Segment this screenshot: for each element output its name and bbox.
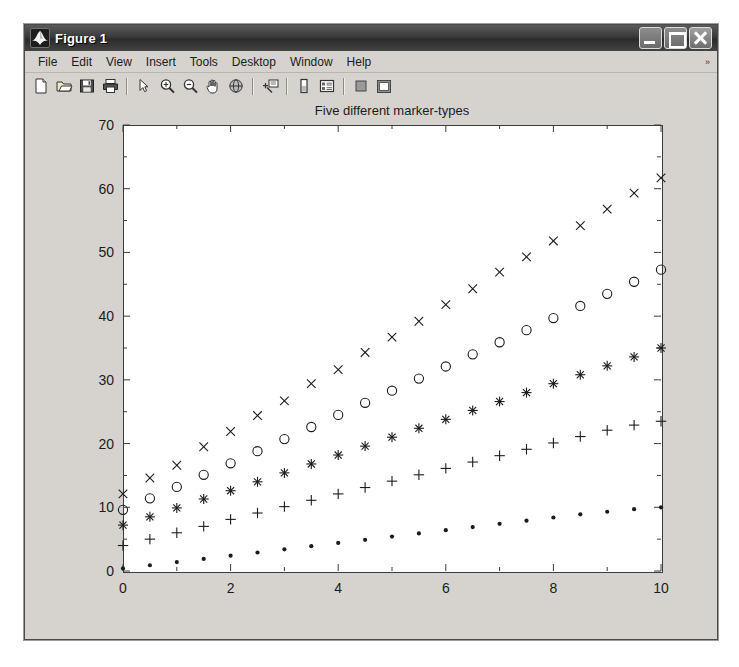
matlab-membrane-icon [30,28,50,48]
menu-help[interactable]: Help [340,53,379,71]
window-controls [639,27,714,49]
save-figure-icon[interactable] [76,76,98,97]
figure-toolbar [25,73,717,100]
rotate-3d-icon[interactable] [225,76,247,97]
svg-text:20: 20 [98,436,114,452]
svg-text:0: 0 [119,580,127,596]
svg-text:0: 0 [106,563,114,579]
show-plot-tools-icon[interactable] [373,76,395,97]
svg-text:50: 50 [98,244,114,260]
print-figure-icon[interactable] [99,76,121,97]
pan-hand-icon[interactable] [202,76,224,97]
menu-window[interactable]: Window [283,53,340,71]
menu-tools[interactable]: Tools [183,53,225,71]
svg-text:4: 4 [334,580,342,596]
minimize-button[interactable] [639,27,662,49]
window-title: Figure 1 [55,31,107,46]
axis-tick-labels: 0102030405060700246810 [98,117,669,596]
insert-colorbar-icon[interactable] [293,76,315,97]
open-file-icon[interactable] [53,76,75,97]
svg-text:10: 10 [653,580,669,596]
axis-ticks [123,125,661,571]
svg-text:2: 2 [227,580,235,596]
toolbar-separator [252,78,254,95]
toolbar-separator [343,78,345,95]
toolbar-separator [126,78,128,95]
insert-legend-icon[interactable] [316,76,338,97]
scatter-plot: 0102030405060700246810 [25,99,717,639]
window-titlebar: Figure 1 [25,25,717,51]
menu-insert[interactable]: Insert [139,53,183,71]
svg-text:40: 40 [98,308,114,324]
screenshot-root: Figure 1 File Edit View Insert Tools Des… [0,0,739,667]
menu-overflow-icon[interactable]: » [705,57,710,67]
data-cursor-icon[interactable] [259,76,281,97]
figure-window: Figure 1 File Edit View Insert Tools Des… [24,24,718,640]
svg-text:10: 10 [98,499,114,515]
zoom-in-icon[interactable] [156,76,178,97]
figure-canvas: Five different marker-types 010203040506… [25,99,717,639]
new-figure-icon[interactable] [30,76,52,97]
maximize-button[interactable] [664,27,687,49]
menu-edit[interactable]: Edit [64,53,99,71]
edit-plot-pointer-icon[interactable] [133,76,155,97]
svg-text:30: 30 [98,372,114,388]
menu-desktop[interactable]: Desktop [225,53,283,71]
toolbar-separator [286,78,288,95]
svg-text:60: 60 [98,181,114,197]
data-markers [118,174,666,571]
svg-text:70: 70 [98,117,114,133]
close-button[interactable] [689,27,712,49]
menu-view[interactable]: View [99,53,139,71]
menubar: File Edit View Insert Tools Desktop Wind… [25,51,717,73]
svg-text:6: 6 [442,580,450,596]
svg-text:8: 8 [550,580,558,596]
hide-plot-tools-icon[interactable] [350,76,372,97]
menu-file[interactable]: File [31,53,64,71]
zoom-out-icon[interactable] [179,76,201,97]
